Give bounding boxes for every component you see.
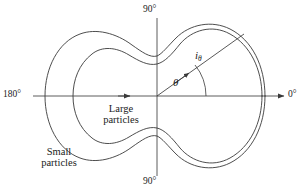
theta-angle-arc bbox=[195, 65, 206, 96]
small-particles-label-line1: Small bbox=[29, 146, 89, 157]
large-particles-label-line1: Large bbox=[90, 103, 152, 114]
theta-symbol-label: θ bbox=[173, 77, 178, 89]
axis-label-180: 180° bbox=[3, 89, 21, 99]
scattering-polar-diagram: 90° 90° 180° 0° Large particles Small pa… bbox=[0, 0, 306, 195]
intensity-ray-group bbox=[157, 34, 244, 96]
intensity-symbol-label: iθ bbox=[195, 50, 202, 63]
small-particles-label-line2: particles bbox=[29, 157, 89, 168]
small-particles-label: Small particles bbox=[29, 146, 89, 169]
axis-label-top-90: 90° bbox=[143, 4, 156, 14]
large-particles-label: Large particles bbox=[90, 103, 152, 126]
axis-label-bottom-90: 90° bbox=[143, 176, 156, 186]
intensity-symbol-subscript: θ bbox=[198, 54, 202, 63]
intensity-ray-line bbox=[157, 34, 244, 96]
axis-label-0: 0° bbox=[288, 89, 297, 99]
large-particles-label-line2: particles bbox=[90, 114, 152, 125]
